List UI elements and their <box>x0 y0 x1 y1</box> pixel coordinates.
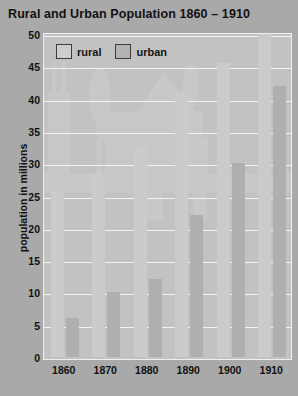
legend-label-urban: urban <box>136 46 167 58</box>
bars-group <box>44 34 291 359</box>
bar-urban-1870 <box>107 292 120 357</box>
plot-area: ruralurban <box>43 33 292 360</box>
x-tick-1890: 1890 <box>177 364 200 376</box>
y-tick-10: 10 <box>28 287 40 299</box>
x-tick-1880: 1880 <box>135 364 158 376</box>
bar-rural-1870 <box>92 173 105 357</box>
bar-rural-1910 <box>258 34 271 357</box>
x-tick-1870: 1870 <box>94 364 117 376</box>
bar-urban-1900 <box>232 163 245 357</box>
page-title: Rural and Urban Population 1860 – 1910 <box>8 7 250 21</box>
y-tick-35: 35 <box>28 126 40 138</box>
bar-rural-1900 <box>217 63 230 357</box>
y-tick-15: 15 <box>28 255 40 267</box>
rural-swatch <box>56 44 72 59</box>
y-tick-45: 45 <box>28 61 40 73</box>
legend-item-urban[interactable]: urban <box>115 44 167 59</box>
y-tick-40: 40 <box>28 94 40 106</box>
y-tick-20: 20 <box>28 223 40 235</box>
chart-page: Rural and Urban Population 1860 – 1910 p… <box>0 0 298 396</box>
bar-rural-1880 <box>134 147 147 357</box>
y-tick-5: 5 <box>34 320 40 332</box>
x-axis-tick-labels: 186018701880189019001910 <box>43 364 292 384</box>
legend-item-rural[interactable]: rural <box>56 44 101 59</box>
bar-urban-1890 <box>190 215 203 357</box>
bar-urban-1880 <box>149 279 162 357</box>
legend: ruralurban <box>56 44 167 59</box>
bar-rural-1890 <box>175 92 188 357</box>
bar-urban-1860 <box>66 318 79 357</box>
legend-label-rural: rural <box>77 46 101 58</box>
y-tick-25: 25 <box>28 191 40 203</box>
x-tick-1860: 1860 <box>52 364 75 376</box>
axis-baseline <box>44 359 291 360</box>
x-tick-1900: 1900 <box>218 364 241 376</box>
urban-swatch <box>115 44 131 59</box>
y-axis-tick-labels: 05101520253035404550 <box>14 28 40 364</box>
y-tick-30: 30 <box>28 158 40 170</box>
y-tick-50: 50 <box>28 29 40 41</box>
y-tick-0: 0 <box>34 352 40 364</box>
x-tick-1910: 1910 <box>260 364 283 376</box>
bar-urban-1910 <box>273 86 286 357</box>
bar-rural-1860 <box>51 192 64 357</box>
